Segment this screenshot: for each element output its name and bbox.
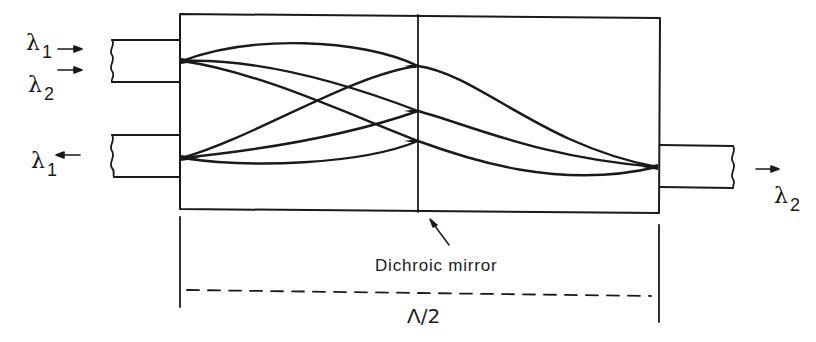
subscript: 1	[47, 160, 57, 180]
label-input-lambda1: λ1	[26, 30, 52, 55]
arrow-right-icon	[756, 166, 779, 172]
fiber-output-left	[111, 135, 180, 177]
wdm-diagram: λ1 λ2 λ1 λ2 Dichroic mirror Λ/2	[0, 0, 816, 342]
lambda-symbol: λ	[31, 148, 45, 173]
arrow-left-icon	[56, 152, 80, 158]
subscript: 1	[42, 42, 52, 62]
focal-points	[181, 58, 658, 170]
label-output-left-lambda1: λ1	[31, 148, 57, 173]
lambda-symbol: λ	[26, 30, 40, 55]
label-input-lambda2: λ2	[28, 72, 54, 97]
dimension-label: Λ/2	[407, 304, 440, 328]
subscript: 2	[44, 84, 54, 104]
lambda-symbol: λ	[774, 183, 788, 208]
diagram-drawing	[0, 0, 816, 342]
lambda-symbol: λ	[28, 72, 42, 97]
fiber-input	[111, 40, 180, 82]
mirror-pointer-arrow-icon	[430, 219, 449, 245]
lens-body	[180, 14, 660, 213]
label-output-right-lambda2: λ2	[774, 183, 800, 208]
fiber-output-right	[660, 145, 734, 188]
subscript: 2	[790, 195, 800, 215]
arrow-right-icon	[58, 46, 82, 52]
arrow-right-icon	[58, 67, 82, 73]
mirror-caption: Dichroic mirror	[375, 256, 498, 276]
ray-paths	[182, 43, 657, 175]
